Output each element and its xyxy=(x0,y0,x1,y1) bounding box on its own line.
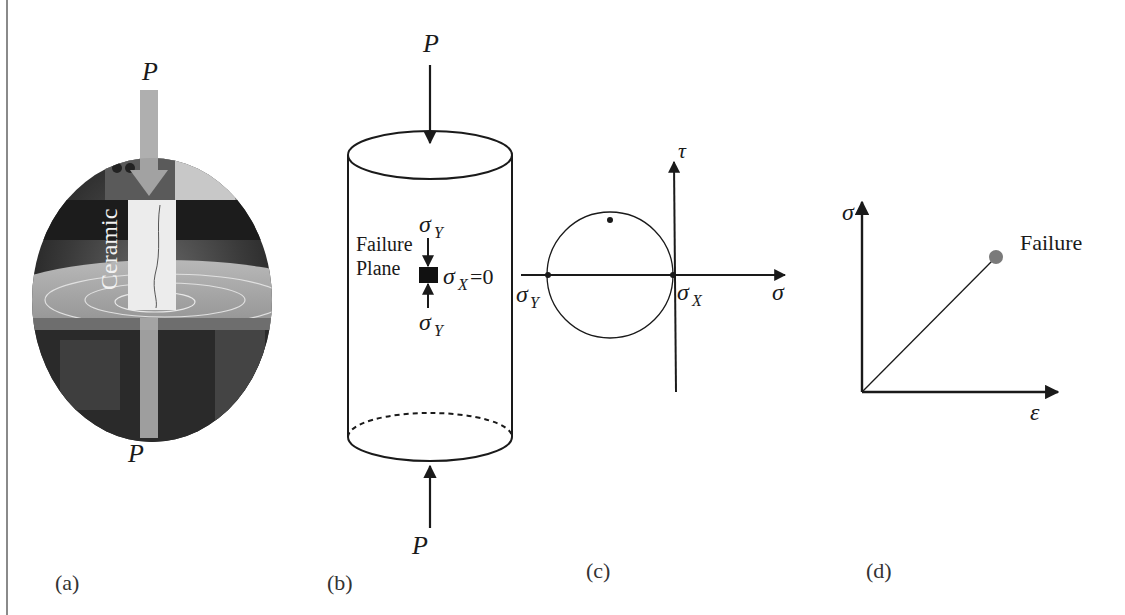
sigma-x-point-label: σ X xyxy=(677,279,703,309)
panel-b-load-top-label: P xyxy=(422,29,439,58)
panel-b-load-bottom-label: P xyxy=(411,531,428,560)
svg-text:Y: Y xyxy=(434,322,445,339)
failure-label: Failure xyxy=(1020,230,1082,255)
panel-a-load-bottom-label: P xyxy=(127,439,144,468)
panel-c-caption: (c) xyxy=(586,558,610,584)
sigma-y-top-label: σ Y xyxy=(419,211,445,241)
panel-b-caption: (b) xyxy=(327,570,353,596)
svg-text:σ: σ xyxy=(419,309,432,335)
svg-text:Y: Y xyxy=(530,294,541,311)
max-shear-point xyxy=(607,217,613,223)
bottom-load-arrow xyxy=(140,318,158,438)
tau-axis-label: τ xyxy=(678,138,687,163)
svg-text:σ: σ xyxy=(419,211,432,237)
sigma-x-label: σ X =0 xyxy=(443,263,493,293)
top-load-arrow-shaft xyxy=(140,90,158,170)
sigma-y-point xyxy=(545,272,551,278)
sigma-y-point-label: σ Y xyxy=(516,281,541,311)
svg-text:σ: σ xyxy=(443,263,456,289)
stress-axis-label: σ xyxy=(842,199,855,225)
failure-plane-label-line2: Plane xyxy=(356,257,401,279)
sigma-x-point xyxy=(670,272,676,278)
svg-text:Y: Y xyxy=(434,224,445,241)
panel-c-mohr-circle xyxy=(521,162,785,392)
failure-point xyxy=(989,250,1003,264)
svg-text:X: X xyxy=(457,276,469,293)
svg-text:σ: σ xyxy=(677,279,690,305)
svg-text:σ: σ xyxy=(516,281,529,307)
strain-axis-label: ε xyxy=(1030,399,1040,425)
sigma-axis-label: σ xyxy=(772,279,785,305)
ceramic-label: Ceramic xyxy=(96,209,122,290)
svg-text:=0: =0 xyxy=(470,264,493,289)
svg-text:X: X xyxy=(691,292,703,309)
panel-a-caption: (a) xyxy=(55,570,79,596)
failure-plane-label-line1: Failure xyxy=(356,233,413,255)
panel-d-caption: (d) xyxy=(866,558,892,584)
figure-canvas: P P Ceramic P P Failure Plane σ Y σ X =0… xyxy=(0,0,1125,615)
linear-elastic-line xyxy=(862,257,996,392)
sigma-y-bottom-label: σ Y xyxy=(419,309,445,339)
stress-element xyxy=(419,267,438,283)
panel-b-cylinder xyxy=(348,65,512,528)
panel-a-load-top-label: P xyxy=(141,57,158,86)
panel-a-photo: P P Ceramic xyxy=(0,57,335,468)
cylinder-bottom-hidden-edge xyxy=(348,413,512,437)
